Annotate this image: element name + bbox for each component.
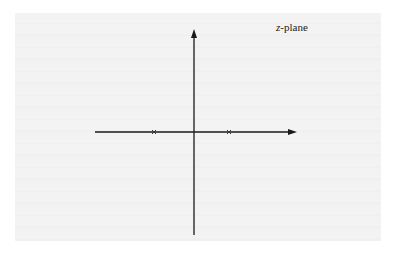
real-axis-arrowhead — [288, 129, 297, 135]
imaginary-axis-arrowhead — [191, 29, 197, 38]
z-plane-label: z-plane — [276, 21, 308, 33]
z-plane-diagram — [0, 0, 396, 257]
plane-text: -plane — [280, 21, 307, 33]
real-axis — [95, 129, 297, 135]
